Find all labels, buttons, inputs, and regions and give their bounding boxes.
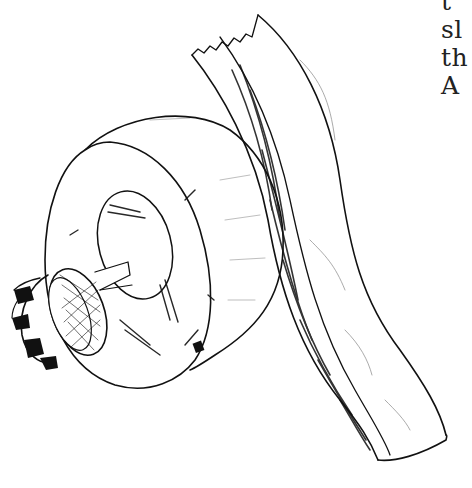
text-line: A	[441, 72, 472, 100]
curved-wood-strip	[192, 15, 447, 460]
text-line: th	[441, 44, 472, 72]
text-line: t	[441, 0, 472, 16]
text-line: sl	[441, 16, 472, 44]
cropped-text-column: t sl th A	[441, 0, 472, 100]
